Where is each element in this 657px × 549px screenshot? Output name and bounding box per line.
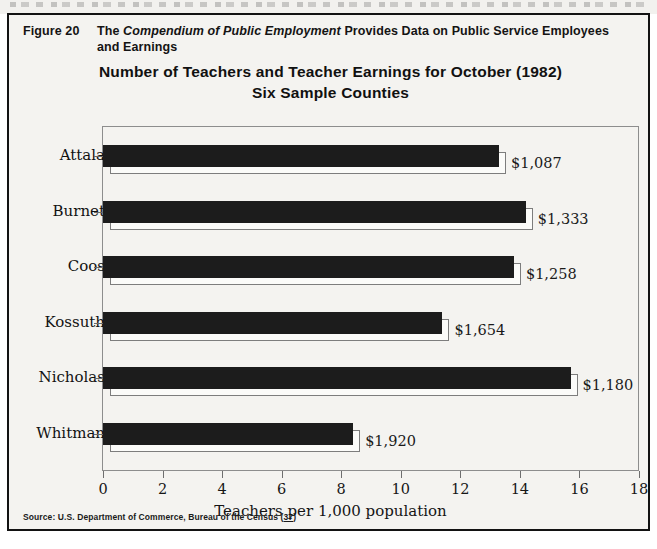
x-tick-mark (520, 471, 521, 478)
x-tick-mark (639, 471, 640, 478)
source-note: Source: U.S. Department of Commerce, Bur… (23, 512, 296, 522)
x-tick-label: 2 (158, 481, 167, 497)
x-tick-label: 16 (570, 481, 588, 497)
x-tick-mark (222, 471, 223, 478)
x-tick-label: 0 (98, 481, 107, 497)
x-tick-label: 4 (217, 481, 226, 497)
source-close-paren: ) (293, 512, 296, 522)
x-tick-label: 6 (277, 481, 286, 497)
x-tick-label: 12 (451, 481, 469, 497)
x-tick-label: 8 (337, 481, 346, 497)
x-tick-mark (460, 471, 461, 478)
x-tick-mark (401, 471, 402, 478)
x-tick-mark (163, 471, 164, 478)
x-tick-mark (282, 471, 283, 478)
x-tick-label: 14 (511, 481, 529, 497)
source-text: Source: U.S. Department of Commerce, Bur… (23, 512, 283, 522)
x-tick-label: 18 (630, 481, 648, 497)
x-axis: 024681012141618 (9, 15, 652, 533)
x-tick-mark (103, 471, 104, 478)
x-tick-mark (341, 471, 342, 478)
figure-container: Figure 20The Compendium of Public Employ… (7, 13, 650, 531)
source-reference-number: 37 (283, 512, 293, 522)
x-tick-mark (579, 471, 580, 478)
x-tick-label: 10 (392, 481, 410, 497)
page-scan-bleed (0, 0, 657, 14)
